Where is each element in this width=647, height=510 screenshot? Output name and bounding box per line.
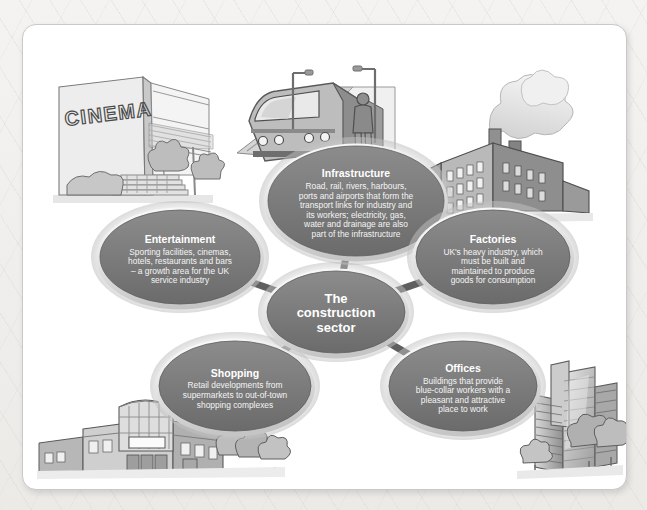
diagram-card: CINEMA <box>22 24 627 490</box>
node-ellipse[interactable] <box>267 271 405 353</box>
cinema-building-illustration: CINEMA <box>53 77 225 203</box>
node-ellipse[interactable] <box>159 341 311 431</box>
node-factories[interactable]: FactoriesUK's heavy industry, whichmust … <box>407 201 579 313</box>
diagram-canvas: CINEMA <box>23 25 626 489</box>
node-ellipse[interactable] <box>389 341 537 431</box>
node-ellipse[interactable] <box>416 210 570 304</box>
node-offices[interactable]: OfficesBuildings that provideblue-collar… <box>380 332 546 440</box>
node-ellipse[interactable] <box>100 210 260 304</box>
node-entertainment[interactable]: EntertainmentSporting facilities, cinema… <box>91 201 269 313</box>
node-center[interactable]: Theconstructionsector <box>258 262 414 362</box>
